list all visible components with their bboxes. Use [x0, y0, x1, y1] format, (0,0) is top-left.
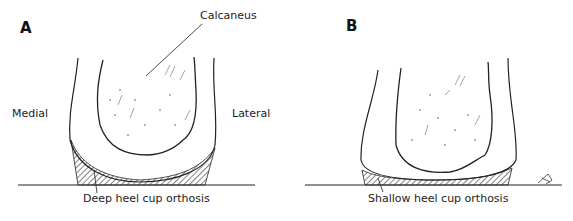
orthosis-label: Shallow heel cup orthosis — [368, 192, 508, 205]
shallow-heel-cup-illustration — [290, 0, 573, 221]
panel-letter: A — [20, 19, 32, 37]
heel-soft-tissue-outline — [361, 58, 516, 180]
shallow-orthosis-shape — [362, 168, 512, 185]
deep-orthosis-shape — [71, 140, 215, 185]
panel-letter: B — [346, 17, 357, 35]
bone-texture — [109, 89, 176, 136]
artist-signature-icon — [538, 174, 552, 184]
bone-hatching — [118, 65, 190, 120]
panel-a-deep-heel-cup: A Calcaneus Medial Lateral Deep heel cup… — [0, 0, 290, 221]
bone-texture — [411, 94, 476, 146]
orthosis-label: Deep heel cup orthosis — [83, 192, 210, 205]
medial-label: Medial — [12, 107, 48, 120]
calcaneus-label: Calcaneus — [200, 9, 257, 22]
calcaneus-bone — [396, 62, 492, 172]
calcaneus-bone — [97, 57, 196, 155]
lateral-label: Lateral — [232, 107, 270, 120]
bone-hatching — [425, 75, 480, 135]
panel-b-shallow-heel-cup: B Shallow heel cup orthosis — [290, 0, 573, 221]
